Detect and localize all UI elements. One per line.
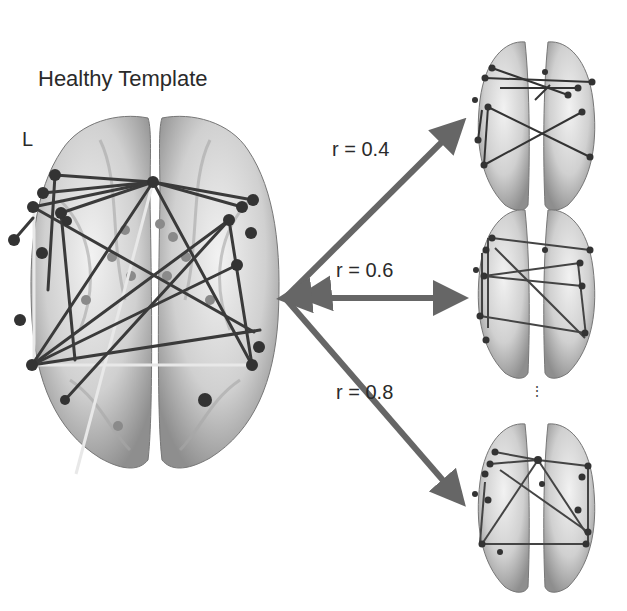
arrow-label-r08: r = 0.8	[336, 381, 393, 404]
small-brain-top	[472, 42, 596, 210]
small-brain-middle	[473, 210, 595, 378]
template-brain	[8, 116, 279, 474]
hemisphere-label: L	[22, 128, 33, 151]
arrows	[285, 124, 460, 500]
continuation-ellipsis: ⋮	[530, 388, 544, 395]
arrow-label-r06: r = 0.6	[336, 259, 393, 282]
figure-title: Healthy Template	[38, 66, 208, 92]
arrow-label-r04: r = 0.4	[332, 138, 389, 161]
small-brain-bottom	[472, 424, 595, 592]
